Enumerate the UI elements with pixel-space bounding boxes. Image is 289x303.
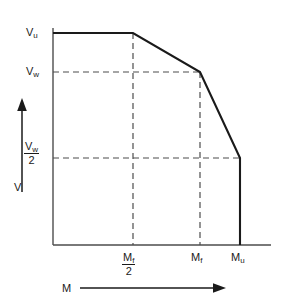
- x-tick-label-mu: Mu: [231, 252, 245, 263]
- y-tick-vw-subscript: w: [33, 70, 39, 79]
- x-tick-mf-half-base: M: [123, 251, 132, 263]
- x-tick-mf-base: M: [191, 251, 200, 263]
- fraction-vw-over-2: Vw 2: [24, 141, 39, 166]
- interaction-envelope-curve: [53, 33, 240, 245]
- m-axis-arrow-head: [213, 283, 226, 293]
- fraction-numerator: Mf: [122, 252, 135, 265]
- y-axis-title: V: [14, 182, 21, 193]
- shear-moment-interaction-figure: Vu Vw Vw 2 V Mf 2 Mf Mu M: [0, 0, 289, 303]
- fraction-denominator: 2: [24, 154, 39, 166]
- fraction-mf-over-2: Mf 2: [122, 252, 135, 277]
- x-tick-label-mf: Mf: [191, 252, 202, 263]
- y-tick-label-vu: Vu: [26, 27, 38, 38]
- x-tick-mu-subscript: u: [240, 256, 244, 265]
- x-axis-title: M: [62, 283, 71, 294]
- x-tick-mu-base: M: [231, 251, 240, 263]
- fraction-denominator: 2: [122, 265, 135, 277]
- plot-canvas: [0, 0, 289, 303]
- y-tick-label-vw: Vw: [26, 66, 39, 77]
- y-tick-vu-subscript: u: [33, 31, 37, 40]
- y-tick-label-vw-half: Vw 2: [24, 141, 39, 166]
- x-tick-mf-half-subscript: f: [132, 256, 134, 265]
- v-axis-arrow-head: [17, 98, 27, 111]
- x-tick-label-mf-half: Mf 2: [122, 252, 135, 277]
- fraction-numerator: Vw: [24, 141, 39, 154]
- y-tick-vw-half-subscript: w: [32, 145, 38, 154]
